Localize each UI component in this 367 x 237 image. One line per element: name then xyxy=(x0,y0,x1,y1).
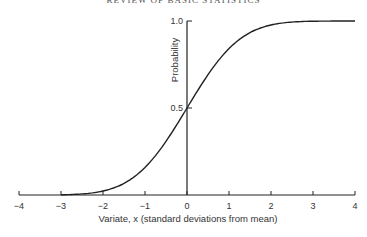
x-tick-label: 0 xyxy=(184,201,189,211)
cdf-chart: −4−3−2−101234 0.51.0 Probability Variate… xyxy=(0,0,367,237)
x-tick-label: −1 xyxy=(140,201,150,211)
y-axis-label: Probability xyxy=(169,38,180,83)
x-tick-label: −3 xyxy=(56,201,66,211)
x-tick-label: 4 xyxy=(352,201,357,211)
x-tick-label: −2 xyxy=(98,201,108,211)
x-tick-label: 2 xyxy=(268,201,273,211)
x-tick-label: 1 xyxy=(226,201,231,211)
cdf-curve xyxy=(61,21,355,195)
y-tick-label: 1.0 xyxy=(170,16,183,26)
x-axis-label: Variate, x (standard deviations from mea… xyxy=(99,213,278,224)
y-tick-label: 0.5 xyxy=(170,103,183,113)
x-tick-label: −4 xyxy=(14,201,24,211)
x-tick-label: 3 xyxy=(310,201,315,211)
